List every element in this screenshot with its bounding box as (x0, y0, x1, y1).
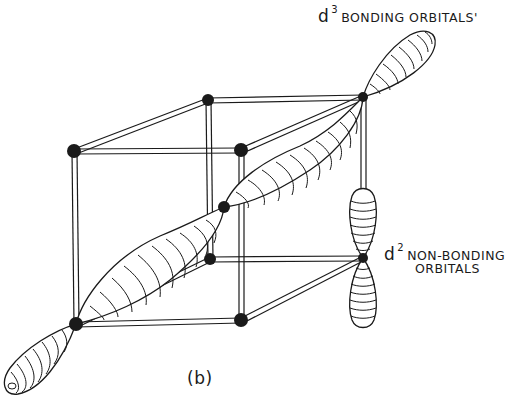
nonbonding-orbitals-label: d2NON-BONDING ORBITALS (384, 242, 505, 264)
orbital-diagram: d3BONDING ORBITALS' d2NON-BONDING ORBITA… (0, 0, 515, 396)
atom-back-top-right (358, 92, 368, 102)
rod-front-bottom (76, 318, 241, 327)
atom-back-bottom-left (204, 253, 216, 265)
atom-body-center (218, 201, 230, 213)
lobe-nonbonding-upper (350, 189, 377, 259)
rod-back-top (208, 95, 363, 103)
atom-front-top-right (234, 143, 248, 157)
rod-depth-bottom-right (241, 256, 363, 323)
lobe-nonbonding-lower (350, 258, 377, 328)
atom-front-bottom-left (69, 317, 83, 331)
bonding-orbitals-label: d3BONDING ORBITALS' (318, 4, 478, 26)
lobe-upper-right-outer (363, 31, 435, 97)
atom-back-top-left (202, 94, 214, 106)
rod-back-bottom (210, 256, 363, 262)
atom-front-bottom-right (234, 313, 248, 327)
rod-front-top (74, 148, 241, 154)
rod-depth-top-left (74, 98, 208, 154)
lobe-lower-left-outer (4, 324, 76, 394)
atom-front-top-left (67, 144, 81, 158)
panel-label: (b) (187, 368, 213, 388)
atom-back-bottom-right (358, 253, 368, 263)
rod-front-right (239, 150, 244, 320)
rod-front-left (72, 151, 79, 324)
